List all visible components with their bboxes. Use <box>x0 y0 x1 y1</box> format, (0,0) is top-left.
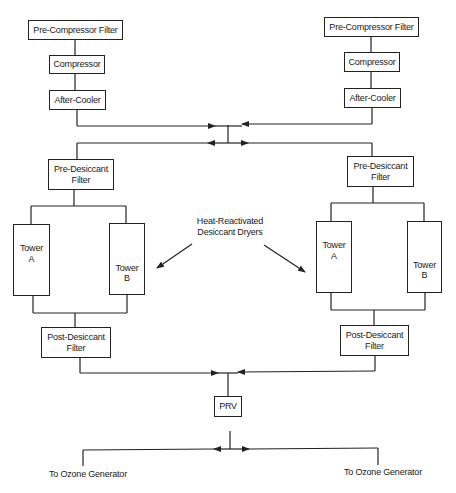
output-right-label: To Ozone Generator <box>335 467 431 478</box>
output-left-label: To Ozone Generator <box>40 469 136 480</box>
right-pre-compressor-filter: Pre-Compressor Filter <box>324 17 419 37</box>
right-pre-desiccant-filter: Pre-Desiccant Filter <box>347 156 414 187</box>
left-tower-b: Tower B <box>109 223 145 295</box>
left-tower-a: Tower A <box>13 224 50 296</box>
left-pre-compressor-filter: Pre-Compressor Filter <box>28 20 123 40</box>
right-post-desiccant-filter: Post-Desiccant Filter <box>340 325 409 356</box>
dryers-callout-label: Heat-Reactivated Desiccant Dryers <box>178 216 282 238</box>
right-after-cooler: After-Cooler <box>344 88 401 108</box>
right-compressor: Compressor <box>344 52 400 72</box>
right-tower-a: Tower A <box>316 221 352 293</box>
left-compressor: Compressor <box>49 55 105 74</box>
prv-box: PRV <box>214 396 242 417</box>
left-post-desiccant-filter: Post-Desiccant Filter <box>41 327 111 358</box>
left-after-cooler: After-Cooler <box>49 90 106 110</box>
right-tower-b: Tower B <box>407 221 442 293</box>
left-pre-desiccant-filter: Pre-Desiccant Filter <box>48 159 114 190</box>
